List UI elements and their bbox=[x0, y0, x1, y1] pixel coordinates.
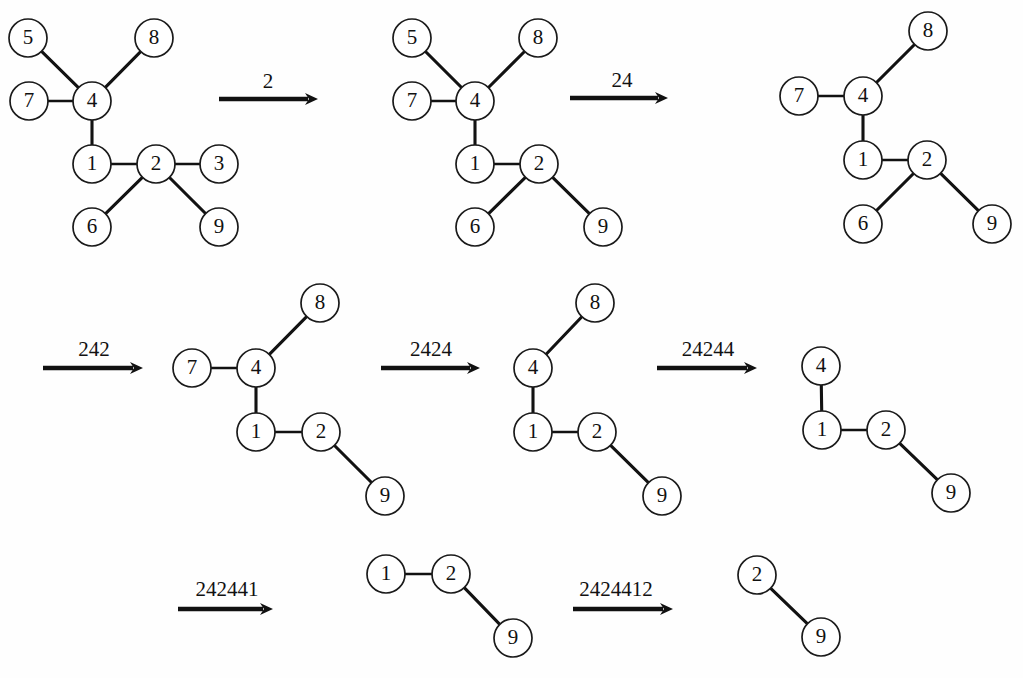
graph-edge bbox=[545, 316, 582, 355]
graph-node[interactable]: 5 bbox=[9, 19, 47, 57]
node-circle bbox=[456, 208, 494, 246]
node-circle bbox=[908, 141, 946, 179]
node-circle bbox=[73, 208, 111, 246]
node-circle bbox=[9, 19, 47, 57]
node-circle bbox=[173, 349, 211, 387]
graph-node[interactable]: 6 bbox=[73, 208, 111, 246]
node-circle bbox=[909, 12, 947, 50]
graph-node[interactable]: 8 bbox=[301, 284, 339, 322]
graph-node[interactable]: 1 bbox=[456, 145, 494, 183]
arrow-label: 24 bbox=[612, 68, 634, 92]
graph-node[interactable]: 7 bbox=[393, 82, 431, 120]
graph-edge bbox=[552, 177, 590, 215]
graph-edges-5 bbox=[533, 316, 649, 483]
arrow-label: 242441 bbox=[196, 577, 259, 601]
node-circle bbox=[578, 413, 616, 451]
graph-node[interactable]: 9 bbox=[584, 208, 622, 246]
graph-edge bbox=[876, 44, 916, 84]
graph-edge bbox=[940, 173, 979, 212]
node-circle bbox=[367, 555, 405, 593]
arrow-label: 24244 bbox=[682, 337, 735, 361]
graph-node[interactable]: 2 bbox=[867, 411, 905, 449]
node-circle bbox=[393, 19, 431, 57]
graph-edge bbox=[425, 51, 463, 89]
graph-edge bbox=[269, 316, 308, 355]
graph-edge bbox=[488, 177, 526, 215]
node-circle bbox=[393, 82, 431, 120]
graph-edge bbox=[464, 587, 501, 625]
graph-node[interactable]: 8 bbox=[576, 284, 614, 322]
node-circle bbox=[973, 205, 1011, 243]
node-circle bbox=[643, 477, 681, 515]
graph-node[interactable]: 2 bbox=[432, 555, 470, 593]
node-circle bbox=[520, 145, 558, 183]
graph-node[interactable]: 2 bbox=[908, 141, 946, 179]
graph-node[interactable]: 1 bbox=[803, 411, 841, 449]
graph-node[interactable]: 9 bbox=[494, 619, 532, 657]
node-circle bbox=[137, 145, 175, 183]
graph-node[interactable]: 4 bbox=[514, 349, 552, 387]
graph-edge bbox=[876, 173, 915, 212]
graph-node[interactable]: 7 bbox=[173, 349, 211, 387]
graph-edge bbox=[169, 177, 207, 215]
graph-nodes-6: 4129 bbox=[802, 347, 970, 512]
graph-node[interactable]: 5 bbox=[393, 19, 431, 57]
node-circle bbox=[519, 19, 557, 57]
node-circle bbox=[301, 284, 339, 322]
node-circle bbox=[738, 556, 776, 594]
graph-node[interactable]: 8 bbox=[519, 19, 557, 57]
node-circle bbox=[135, 19, 173, 57]
graph-node[interactable]: 7 bbox=[780, 77, 818, 115]
graph-node[interactable]: 4 bbox=[456, 82, 494, 120]
graph-edges-2 bbox=[425, 51, 590, 215]
graph-node[interactable]: 6 bbox=[844, 205, 882, 243]
graph-node[interactable]: 1 bbox=[514, 413, 552, 451]
arrow-label: 2424412 bbox=[579, 577, 653, 601]
graph-edge bbox=[899, 443, 938, 481]
arrow-7: 2424412 bbox=[573, 577, 673, 615]
graph-node[interactable]: 6 bbox=[456, 208, 494, 246]
arrow-3: 242 bbox=[43, 337, 143, 374]
graph-node[interactable]: 4 bbox=[802, 347, 840, 385]
graph-edge bbox=[610, 445, 649, 484]
graph-node[interactable]: 4 bbox=[73, 82, 111, 120]
node-circle bbox=[237, 413, 275, 451]
graph-node[interactable]: 7 bbox=[10, 82, 48, 120]
graph-node[interactable]: 9 bbox=[973, 205, 1011, 243]
node-circle bbox=[494, 619, 532, 657]
graph-node[interactable]: 1 bbox=[367, 555, 405, 593]
graph-node[interactable]: 8 bbox=[135, 19, 173, 57]
graph-node[interactable]: 9 bbox=[643, 477, 681, 515]
arrow-5: 24244 bbox=[657, 337, 757, 374]
graph-edge bbox=[770, 588, 808, 625]
graph-node[interactable]: 2 bbox=[137, 145, 175, 183]
graph-node[interactable]: 8 bbox=[909, 12, 947, 50]
graph-node[interactable]: 9 bbox=[802, 618, 840, 656]
graph-node[interactable]: 1 bbox=[73, 145, 111, 183]
graph-edge bbox=[334, 445, 373, 484]
node-circle bbox=[844, 141, 882, 179]
graph-edge bbox=[41, 51, 79, 89]
arrow-label: 2424 bbox=[410, 337, 453, 361]
graph-node[interactable]: 2 bbox=[738, 556, 776, 594]
graph-node[interactable]: 2 bbox=[302, 413, 340, 451]
node-circle bbox=[456, 145, 494, 183]
node-circle bbox=[802, 347, 840, 385]
graph-node[interactable]: 3 bbox=[200, 145, 238, 183]
graph-node[interactable]: 9 bbox=[932, 474, 970, 512]
graph-edge bbox=[105, 177, 143, 215]
graph-node[interactable]: 2 bbox=[578, 413, 616, 451]
graph-node[interactable]: 1 bbox=[844, 141, 882, 179]
graph-edge bbox=[105, 51, 142, 88]
graph-node[interactable]: 4 bbox=[844, 77, 882, 115]
graph-node[interactable]: 1 bbox=[237, 413, 275, 451]
graph-node[interactable]: 9 bbox=[366, 477, 404, 515]
graph-edges-4 bbox=[210, 316, 372, 483]
graph-node[interactable]: 9 bbox=[200, 208, 238, 246]
node-circle bbox=[200, 208, 238, 246]
node-circle bbox=[237, 349, 275, 387]
graph-nodes-7: 129 bbox=[367, 555, 532, 657]
graph-node[interactable]: 4 bbox=[237, 349, 275, 387]
node-circle bbox=[200, 145, 238, 183]
graph-node[interactable]: 2 bbox=[520, 145, 558, 183]
